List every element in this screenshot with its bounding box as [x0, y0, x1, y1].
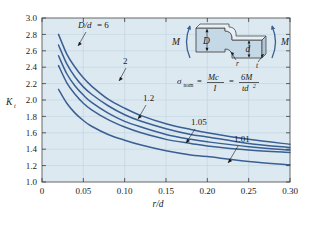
y-tick-label: 2.0 [26, 95, 38, 105]
x-tick-label: 0.05 [75, 186, 91, 196]
dimension-r-label: r [236, 59, 239, 68]
y-tick-label: 2.4 [26, 62, 38, 72]
formula-sigma: σ [177, 76, 182, 86]
y-tick-label: 1.8 [26, 112, 38, 122]
curve-label-dd101-value: 1.01 [234, 134, 250, 144]
y-axis-label-main: K [5, 97, 13, 107]
y-tick-labels: 1.01.21.41.61.82.02.22.42.62.83.0 [26, 13, 38, 187]
y-tick-label: 2.6 [26, 46, 38, 56]
formula-equals-2: = [229, 76, 234, 86]
y-tick-label: 1.6 [26, 128, 38, 138]
moment-right-label: M [280, 37, 290, 47]
y-tick-label: 1.0 [26, 177, 38, 187]
y-tick-label: 2.8 [26, 30, 38, 40]
curve-label-dd6-value: = 6 [97, 20, 109, 30]
formula-denominator-2: td [242, 83, 249, 93]
figure-container: 1.01.21.41.61.82.02.22.42.62.83.0 00.050… [0, 0, 316, 232]
y-tick-label: 1.2 [26, 161, 37, 171]
y-axis-label-sub: t [14, 103, 16, 109]
x-tick-label: 0 [40, 186, 45, 196]
stress-concentration-chart: 1.01.21.41.61.82.02.22.42.62.83.0 00.050… [0, 0, 316, 232]
formula-numerator-2: 6M [241, 72, 253, 82]
curve-label-dd6-prefix: D/d [77, 20, 92, 30]
x-tick-label: 0.15 [158, 186, 174, 196]
formula-numerator-1: Mc [207, 72, 219, 82]
x-tick-label: 0.20 [199, 186, 215, 196]
curve-label-dd2-value: 2 [123, 56, 128, 66]
y-tick-label: 3.0 [26, 13, 38, 23]
x-axis-label: r/d [152, 199, 163, 209]
curve-label-dd12-value: 1.2 [143, 93, 154, 103]
dimension-d-label: d [246, 44, 251, 54]
x-tick-labels: 00.050.100.150.200.250.30 [40, 186, 299, 196]
formula-equals-1: = [197, 76, 202, 86]
x-tick-label: 0.10 [117, 186, 133, 196]
dimension-D-label: D [202, 36, 210, 46]
y-tick-label: 1.4 [26, 144, 38, 154]
formula-denominator-2-exponent: 2 [253, 83, 256, 89]
x-tick-label: 0.25 [241, 186, 257, 196]
y-tick-label: 2.2 [26, 79, 37, 89]
curve-label-dd105-value: 1.05 [191, 117, 207, 127]
x-tick-label: 0.30 [282, 186, 298, 196]
formula-sigma-sub: nom [184, 82, 195, 88]
y-axis-label: K t [5, 97, 16, 109]
moment-left-label: M [171, 37, 181, 47]
